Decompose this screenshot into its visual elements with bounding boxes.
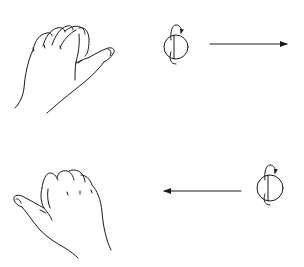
- diagram-canvas: [0, 0, 304, 267]
- left-hand-icon: [14, 170, 111, 258]
- bottom-panel: [14, 165, 283, 258]
- spinning-sphere-icon: [257, 165, 283, 205]
- top-panel: [15, 25, 287, 113]
- spinning-sphere-icon: [164, 25, 188, 64]
- right-hand-icon: [15, 26, 114, 113]
